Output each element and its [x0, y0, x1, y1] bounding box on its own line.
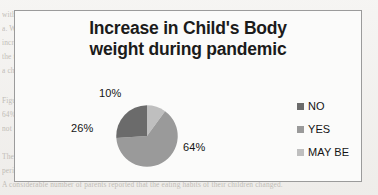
- pie-label-yes: 64%: [183, 141, 205, 153]
- pie-slice-no[interactable]: [116, 105, 147, 138]
- chart-legend: NO YES MAY BE: [297, 95, 363, 164]
- pie-label-may-be: 10%: [99, 87, 121, 99]
- chart-title: Increase in Child's Body weight during p…: [15, 18, 361, 59]
- legend-swatch-icon: [297, 103, 304, 110]
- legend-swatch-icon: [297, 126, 304, 133]
- legend-item-yes[interactable]: YES: [297, 118, 363, 141]
- legend-label-may-be: MAY BE: [308, 147, 349, 158]
- plot-area: 10% 26% 64%: [15, 61, 285, 181]
- pie-label-no: 26%: [71, 122, 93, 134]
- legend-item-may-be[interactable]: MAY BE: [297, 141, 363, 164]
- chart-title-line-1: Increase in Child's Body: [15, 18, 361, 39]
- legend-label-no: NO: [308, 101, 325, 112]
- legend-item-no[interactable]: NO: [297, 95, 363, 118]
- pie-chart-container: Increase in Child's Body weight during p…: [14, 10, 362, 182]
- legend-swatch-icon: [297, 149, 304, 156]
- pie-graphic: [115, 104, 179, 168]
- chart-title-line-2: weight during pandemic: [15, 39, 361, 60]
- legend-label-yes: YES: [308, 124, 330, 135]
